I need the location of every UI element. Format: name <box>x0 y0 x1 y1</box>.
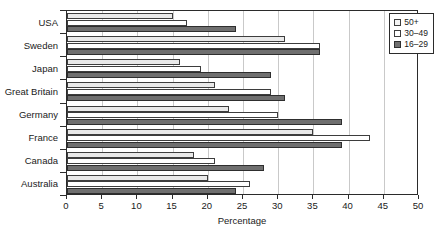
x-axis-label: 25 <box>237 200 248 211</box>
legend-swatch-icon <box>394 30 401 37</box>
bar <box>67 175 208 181</box>
x-axis-title: Percentage <box>66 215 418 226</box>
x-axis-tick <box>66 195 67 199</box>
legend-swatch-icon <box>394 19 401 26</box>
x-axis-tick <box>136 195 137 199</box>
x-axis-label: 10 <box>131 200 142 211</box>
bar <box>67 89 271 95</box>
x-axis-label: 5 <box>99 200 104 211</box>
y-axis-label: Sweden <box>24 39 58 50</box>
bar <box>67 165 264 171</box>
legend-label: 16–29 <box>404 40 428 49</box>
x-axis-tick <box>207 195 208 199</box>
y-axis-label: Japan <box>32 62 58 73</box>
y-axis-tick <box>60 33 66 34</box>
legend-item: 16–29 <box>394 39 428 50</box>
bar <box>67 158 215 164</box>
x-axis-label: 0 <box>63 200 68 211</box>
bar-chart: USASwedenJapanGreat BritainGermanyFrance… <box>0 0 443 236</box>
y-axis-tick <box>60 56 66 57</box>
x-axis-label: 35 <box>307 200 318 211</box>
plot-area <box>66 10 418 195</box>
bar <box>67 112 278 118</box>
y-axis-ticks <box>60 10 67 195</box>
bar <box>67 181 250 187</box>
bar-group <box>67 11 417 34</box>
y-axis-tick <box>60 126 66 127</box>
bar <box>67 20 187 26</box>
y-axis-tick <box>60 103 66 104</box>
legend: 50+30–4916–29 <box>389 13 434 54</box>
legend-label: 50+ <box>404 18 418 27</box>
x-axis-tick <box>242 195 243 199</box>
y-axis-label: Australia <box>21 178 58 189</box>
bar <box>67 66 201 72</box>
y-axis-tick <box>60 79 66 80</box>
bar-group <box>67 80 417 103</box>
y-axis-tick <box>60 172 66 173</box>
x-axis-labels: 05101520253035404550 <box>66 200 418 214</box>
y-axis-label: USA <box>38 16 58 27</box>
bar-group <box>67 173 417 196</box>
legend-swatch-icon <box>394 41 401 48</box>
bars-layer <box>67 11 417 194</box>
y-axis-tick <box>60 10 66 11</box>
bar-group <box>67 34 417 57</box>
y-axis-label: Canada <box>25 155 58 166</box>
x-axis-tick <box>348 195 349 199</box>
y-axis-label: Great Britain <box>5 85 58 96</box>
bar <box>67 43 320 49</box>
bar <box>67 142 342 148</box>
x-axis-label: 40 <box>342 200 353 211</box>
bar <box>67 119 342 125</box>
bar <box>67 36 285 42</box>
bar-group <box>67 150 417 173</box>
bar <box>67 188 236 194</box>
y-axis-labels: USASwedenJapanGreat BritainGermanyFrance… <box>0 10 64 195</box>
bar <box>67 129 313 135</box>
bar <box>67 49 320 55</box>
x-axis-label: 20 <box>202 200 213 211</box>
y-axis-tick <box>60 149 66 150</box>
x-axis-tick <box>418 195 419 199</box>
bar <box>67 26 236 32</box>
bar <box>67 135 370 141</box>
legend-label: 30–49 <box>404 29 428 38</box>
x-axis-tick <box>312 195 313 199</box>
y-axis-label: Germany <box>19 109 58 120</box>
x-axis-tick <box>277 195 278 199</box>
legend-item: 30–49 <box>394 28 428 39</box>
legend-item: 50+ <box>394 17 428 28</box>
x-axis-label: 50 <box>413 200 424 211</box>
bar-group <box>67 104 417 127</box>
x-axis-tick <box>101 195 102 199</box>
y-axis-label: France <box>28 132 58 143</box>
x-axis-tick <box>172 195 173 199</box>
x-axis-label: 15 <box>166 200 177 211</box>
bar <box>67 95 285 101</box>
bar <box>67 152 194 158</box>
bar <box>67 13 173 19</box>
bar <box>67 82 215 88</box>
bar-group <box>67 57 417 80</box>
x-axis-tick <box>383 195 384 199</box>
bar <box>67 106 229 112</box>
bar-group <box>67 127 417 150</box>
bar <box>67 59 180 65</box>
x-axis-label: 45 <box>378 200 389 211</box>
bar <box>67 72 271 78</box>
x-axis-label: 30 <box>272 200 283 211</box>
